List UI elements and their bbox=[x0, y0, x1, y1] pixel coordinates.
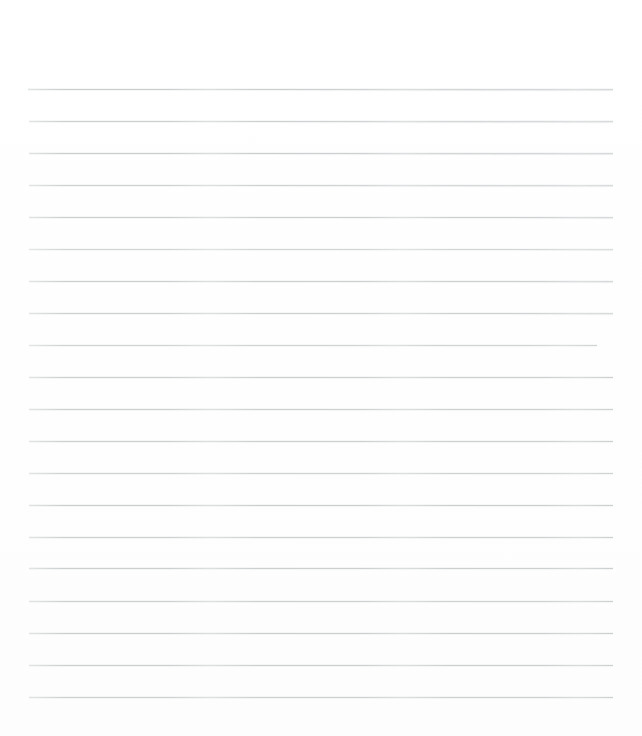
ruled-line bbox=[29, 601, 613, 602]
ruled-line-layer bbox=[0, 0, 642, 736]
ruled-line bbox=[29, 633, 613, 634]
ruled-line bbox=[29, 121, 613, 122]
lined-paper-page bbox=[0, 0, 642, 736]
ruled-line bbox=[29, 249, 613, 250]
ruled-line bbox=[29, 473, 613, 474]
ruled-line bbox=[29, 568, 613, 569]
ruled-line bbox=[29, 665, 613, 666]
ruled-line bbox=[29, 377, 613, 378]
ruled-line bbox=[29, 697, 613, 698]
ruled-line bbox=[29, 185, 613, 186]
ruled-line bbox=[29, 537, 613, 538]
ruled-line bbox=[28, 89, 613, 90]
ruled-line bbox=[29, 409, 613, 410]
ruled-line bbox=[29, 441, 613, 442]
ruled-line bbox=[29, 345, 597, 346]
ruled-line bbox=[29, 153, 613, 154]
ruled-line bbox=[29, 505, 613, 506]
ruled-line bbox=[29, 217, 613, 218]
ruled-line bbox=[29, 313, 613, 314]
ruled-line bbox=[29, 281, 613, 282]
